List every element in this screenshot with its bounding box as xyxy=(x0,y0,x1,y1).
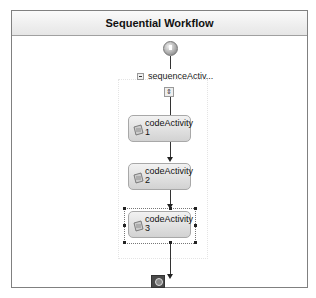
workflow-title: Sequential Workflow xyxy=(12,11,307,36)
resize-handle[interactable] xyxy=(123,224,126,227)
activity-label: codeActivity1 xyxy=(145,119,193,137)
connector-line xyxy=(170,142,171,157)
resize-handle[interactable] xyxy=(194,241,197,244)
sequential-workflow-designer[interactable]: Sequential Workflow sequenceActiv... ⇕ c… xyxy=(11,10,308,288)
workflow-end-icon xyxy=(151,275,165,288)
collapse-icon[interactable] xyxy=(137,73,144,80)
connector-line xyxy=(170,190,171,204)
activity-label: codeActivity3 xyxy=(145,215,193,233)
resize-handle[interactable] xyxy=(123,207,126,210)
resize-handle[interactable] xyxy=(194,224,197,227)
code-activity-icon xyxy=(133,220,144,232)
sequence-activity-label: sequenceActiv... xyxy=(148,71,213,81)
code-activity-icon xyxy=(133,124,144,136)
resize-handle[interactable] xyxy=(123,241,126,244)
code-activity-1[interactable]: codeActivity1 xyxy=(128,115,191,142)
resize-handle[interactable] xyxy=(169,207,172,210)
expand-icon[interactable]: ⇕ xyxy=(164,87,174,97)
connector-line xyxy=(170,97,171,115)
workflow-start-icon xyxy=(163,41,178,56)
arrow-icon xyxy=(167,274,173,279)
code-activity-3[interactable]: codeActivity3 xyxy=(128,211,191,238)
code-activity-icon xyxy=(133,172,144,184)
resize-handle[interactable] xyxy=(194,207,197,210)
connector-line xyxy=(170,56,171,69)
activity-label: codeActivity2 xyxy=(145,167,193,185)
arrow-icon xyxy=(167,157,173,162)
connector-line xyxy=(170,244,171,274)
code-activity-2[interactable]: codeActivity2 xyxy=(128,163,191,190)
